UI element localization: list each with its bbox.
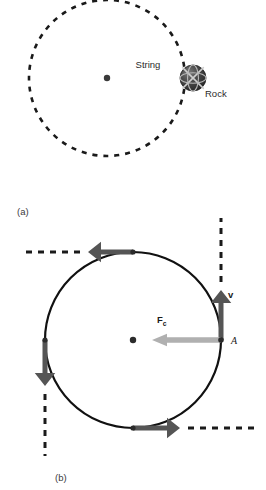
rock-label: Rock xyxy=(205,88,227,99)
path-marker-dot xyxy=(130,425,135,430)
centripetal-force-vector xyxy=(152,334,221,346)
path-marker-dot xyxy=(42,337,47,342)
bottom-tangent-arrow xyxy=(133,418,180,439)
point-a-dot xyxy=(218,337,224,343)
panel-b-group: v Fc A (b) xyxy=(25,218,258,483)
path-marker-dot xyxy=(130,249,135,254)
force-label: Fc xyxy=(157,314,167,327)
pivot-center-dot xyxy=(104,75,110,81)
circle-center-dot xyxy=(130,337,136,343)
force-label-subscript: c xyxy=(163,320,167,327)
tangent-vector-group xyxy=(25,242,258,456)
panel-a-group: String Rock (a) xyxy=(17,0,227,217)
rock-sphere xyxy=(180,65,206,91)
left-tangent-arrow xyxy=(35,340,56,386)
string-label: String xyxy=(136,59,161,70)
physics-figure-root: String Rock (a) v Fc A (b) xyxy=(0,0,266,490)
panel-a-caption: (a) xyxy=(17,206,29,217)
figure-canvas: String Rock (a) v Fc A (b) xyxy=(0,0,266,490)
point-a-label: A xyxy=(230,335,238,346)
panel-b-caption: (b) xyxy=(55,472,67,483)
top-tangent-arrow xyxy=(88,242,133,263)
centripetal-force-arrow xyxy=(152,334,221,346)
velocity-label: v xyxy=(228,289,234,300)
